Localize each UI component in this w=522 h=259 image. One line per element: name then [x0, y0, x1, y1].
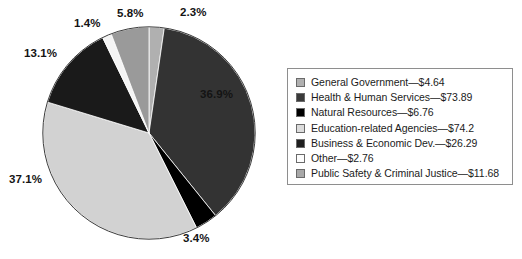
slice-label-public-safety: 5.8% — [117, 7, 144, 19]
legend-swatch-icon — [296, 108, 305, 117]
legend-item-label: General Government—$4.64 — [311, 77, 445, 88]
slice-label-business-economic-dev: 13.1% — [24, 47, 57, 59]
legend-swatch-icon — [296, 139, 305, 148]
pie-chart-graphic — [42, 26, 256, 240]
legend-item-label: Business & Economic Dev.—$26.29 — [311, 138, 477, 149]
legend-swatch-icon — [296, 78, 305, 87]
legend-item[interactable]: Natural Resources—$6.76 — [296, 105, 505, 120]
pie-svg — [42, 26, 256, 240]
legend-item[interactable]: Business & Economic Dev.—$26.29 — [296, 136, 505, 151]
legend-swatch-icon — [296, 169, 305, 178]
legend-item-label: Public Safety & Criminal Justice—$11.68 — [311, 168, 499, 179]
slice-label-health-human-services: 36.9% — [200, 88, 233, 100]
chart-legend: General Government—$4.64Health & Human S… — [287, 68, 513, 185]
legend-item[interactable]: Education-related Agencies—$74.2 — [296, 121, 505, 136]
legend-item[interactable]: Public Safety & Criminal Justice—$11.68 — [296, 166, 505, 181]
legend-swatch-icon — [296, 154, 305, 163]
slice-label-natural-resources: 3.4% — [183, 232, 210, 244]
legend-swatch-icon — [296, 93, 305, 102]
pie-chart-figure: 2.3% 5.8% 1.4% 13.1% 37.1% 3.4% 36.9% Ge… — [0, 0, 522, 259]
legend-item[interactable]: Health & Human Services—$73.89 — [296, 90, 505, 105]
legend-item[interactable]: General Government—$4.64 — [296, 75, 505, 90]
slice-label-education-related-agencies: 37.1% — [9, 173, 42, 185]
legend-item-label: Natural Resources—$6.76 — [311, 107, 434, 118]
legend-item[interactable]: Other—$2.76 — [296, 151, 505, 166]
slice-label-other: 1.4% — [74, 17, 101, 29]
legend-item-label: Health & Human Services—$73.89 — [311, 92, 472, 103]
pie-slice-group — [43, 27, 255, 239]
legend-swatch-icon — [296, 124, 305, 133]
legend-item-label: Education-related Agencies—$74.2 — [311, 123, 474, 134]
slice-label-general-government: 2.3% — [180, 6, 207, 18]
legend-item-label: Other—$2.76 — [311, 153, 374, 164]
